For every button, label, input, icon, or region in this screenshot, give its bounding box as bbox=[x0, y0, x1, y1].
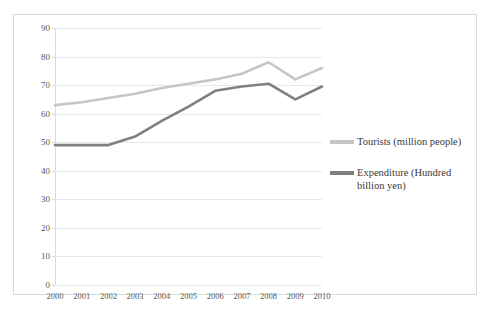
x-tick-label: 2002 bbox=[100, 292, 117, 301]
chart-legend: Tourists (million people)Expenditure (Hu… bbox=[330, 135, 480, 210]
y-tick-label: 50 bbox=[41, 138, 50, 147]
legend-label: Expenditure (Hundred billion yen) bbox=[357, 166, 480, 192]
gridline bbox=[55, 285, 322, 286]
x-tick-label: 2008 bbox=[260, 292, 277, 301]
y-tick-label: 70 bbox=[41, 81, 50, 90]
series-line bbox=[55, 84, 322, 145]
plot-area: 0102030405060708090 20002001200220032004… bbox=[55, 28, 322, 285]
y-tick-label: 90 bbox=[41, 24, 50, 33]
y-tick-label: 40 bbox=[41, 166, 50, 175]
x-tick-label: 2006 bbox=[207, 292, 224, 301]
x-tick-label: 2000 bbox=[47, 292, 64, 301]
y-tick-label: 80 bbox=[41, 52, 50, 61]
series-lines bbox=[55, 28, 322, 285]
y-tick-label: 0 bbox=[46, 281, 51, 290]
y-tick-label: 10 bbox=[41, 252, 50, 261]
x-tick-label: 2003 bbox=[127, 292, 144, 301]
legend-label: Tourists (million people) bbox=[357, 135, 461, 148]
series-line bbox=[55, 62, 322, 105]
chart-frame: 0102030405060708090 20002001200220032004… bbox=[13, 14, 477, 295]
x-tick-label: 2007 bbox=[233, 292, 250, 301]
legend-item[interactable]: Expenditure (Hundred billion yen) bbox=[330, 166, 480, 192]
y-tick-label: 20 bbox=[41, 223, 50, 232]
legend-swatch-icon bbox=[330, 140, 354, 144]
x-tick-label: 2010 bbox=[314, 292, 331, 301]
y-tick-label: 30 bbox=[41, 195, 50, 204]
x-tick-label: 2009 bbox=[287, 292, 304, 301]
legend-swatch-icon bbox=[330, 171, 354, 175]
x-tick-label: 2001 bbox=[73, 292, 90, 301]
legend-item[interactable]: Tourists (million people) bbox=[330, 135, 480, 148]
x-tick-label: 2005 bbox=[180, 292, 197, 301]
y-tick-mark bbox=[52, 285, 55, 286]
x-tick-label: 2004 bbox=[153, 292, 170, 301]
y-tick-label: 60 bbox=[41, 109, 50, 118]
